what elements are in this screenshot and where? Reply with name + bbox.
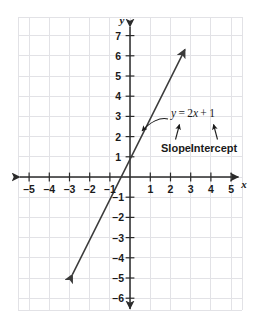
x-tick-label: 4: [208, 183, 214, 195]
y-tick-label: 5: [115, 70, 121, 82]
coordinate-plane-figure: –5 –4 –3 –2 –1 1 2 3 4 5 7 6 5 4 3 2 1 –…: [0, 0, 259, 329]
y-axis-label: y: [118, 14, 125, 26]
intercept-label: Intercept: [191, 142, 238, 154]
y-tick-label: 2: [115, 131, 121, 143]
x-tick-label: –3: [64, 183, 76, 195]
x-tick-label: 2: [168, 183, 174, 195]
equation-constant: 1: [209, 107, 215, 119]
slope-label: Slope: [161, 142, 191, 154]
y-tick-label: 6: [115, 50, 121, 62]
y-tick-label: –5: [112, 272, 124, 284]
x-tick-label: 5: [228, 183, 234, 195]
y-tick-label: 7: [115, 30, 121, 42]
equation-equals: =: [176, 107, 187, 119]
y-tick-label: 4: [115, 90, 121, 102]
y-tick-label: –1: [112, 191, 124, 203]
x-tick-label: 3: [188, 183, 194, 195]
y-tick-label: 3: [115, 110, 121, 122]
x-tick-label: 1: [147, 183, 153, 195]
equation-label: y = 2x + 1: [170, 107, 215, 120]
x-tick-label: –2: [84, 183, 96, 195]
y-tick-label: –6: [112, 292, 124, 304]
x-axis-label: x: [240, 178, 247, 190]
y-tick-label: –4: [112, 252, 124, 264]
x-tick-label: –5: [23, 183, 35, 195]
y-tick-label: –3: [112, 232, 124, 244]
y-tick-label: 1: [115, 151, 121, 163]
graph-svg: –5 –4 –3 –2 –1 1 2 3 4 5 7 6 5 4 3 2 1 –…: [0, 0, 259, 329]
x-tick-label: –4: [43, 183, 55, 195]
equation-plus: +: [198, 107, 209, 119]
y-tick-label: –2: [112, 211, 124, 223]
